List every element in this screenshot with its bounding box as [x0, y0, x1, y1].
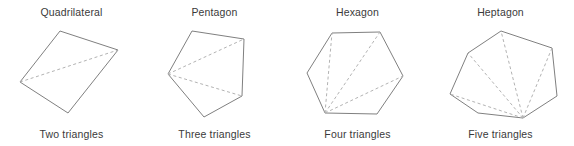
hexagon-title: Hexagon — [286, 6, 429, 19]
panel-hexagon: Hexagon Four triangles — [286, 0, 429, 146]
panel-quadrilateral: Quadrilateral Two triangles — [0, 0, 143, 146]
quadrilateral-caption: Two triangles — [0, 128, 143, 141]
panel-heptagon: Heptagon Five triangles — [429, 0, 572, 146]
polygon-triangulation-figure: Quadrilateral Two triangles Pentagon Thr… — [0, 0, 574, 146]
pentagon-title: Pentagon — [143, 6, 286, 19]
pentagon-caption: Three triangles — [143, 128, 286, 141]
hexagon-caption: Four triangles — [286, 128, 429, 141]
heptagon-caption: Five triangles — [429, 128, 572, 141]
panel-pentagon: Pentagon Three triangles — [143, 0, 286, 146]
quadrilateral-title: Quadrilateral — [0, 6, 143, 19]
heptagon-title: Heptagon — [429, 6, 572, 19]
